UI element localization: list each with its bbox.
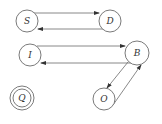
edge-b-to-o	[107, 62, 128, 88]
node-i: I	[19, 44, 41, 66]
node-s: S	[16, 10, 38, 32]
node-label: S	[24, 16, 30, 26]
node-b: B	[125, 41, 149, 65]
node-q: Q	[10, 86, 34, 110]
node-label: D	[105, 16, 113, 26]
node-label: Q	[18, 93, 26, 103]
node-o: O	[93, 88, 115, 110]
edge-o-to-b	[113, 65, 141, 105]
node-label: I	[27, 50, 32, 60]
node-label: O	[100, 94, 108, 104]
state-diagram: S D I B Q O	[0, 0, 162, 124]
node-d: D	[99, 10, 121, 32]
node-label: B	[133, 48, 141, 58]
